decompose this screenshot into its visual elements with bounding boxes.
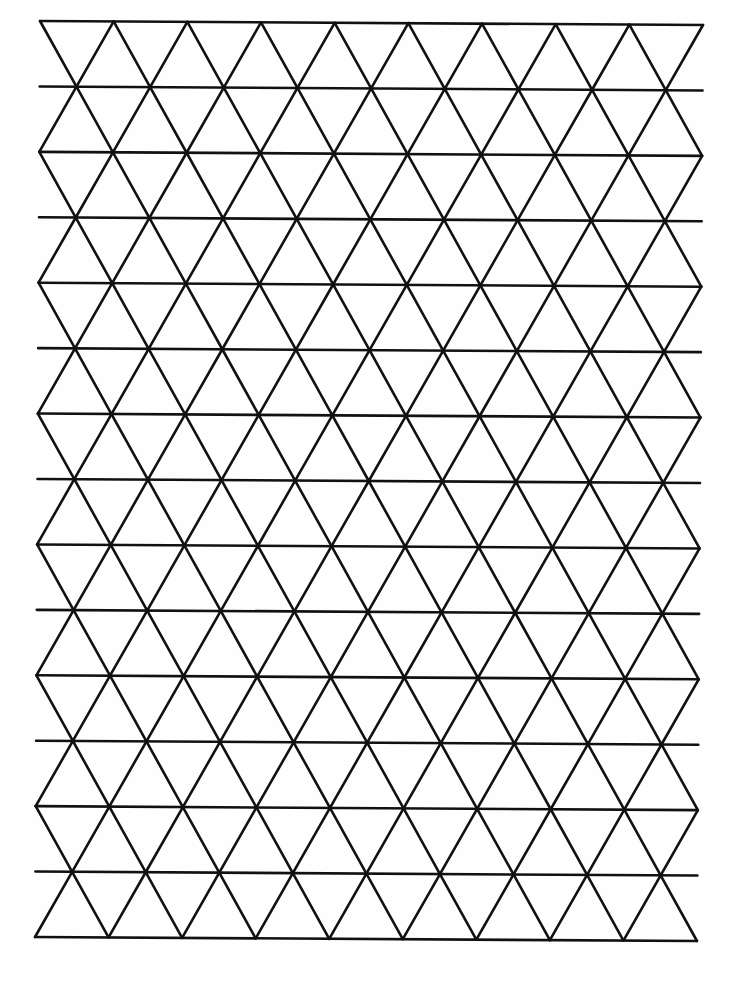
diagonal-line <box>370 154 407 219</box>
diagonal-line <box>371 23 408 88</box>
diagonal-line <box>588 744 624 810</box>
diagonal-line <box>257 677 293 743</box>
diagonal-line <box>219 873 255 939</box>
diagonal-line <box>366 874 402 940</box>
diagonal-line <box>148 414 185 479</box>
diagonal-line <box>187 153 223 219</box>
diagonal-line <box>662 744 698 810</box>
diagonal-line <box>75 348 111 414</box>
diagonal-line <box>182 873 219 938</box>
diagonal-line <box>110 676 146 742</box>
diagonal-line <box>40 21 76 87</box>
diagonal-line <box>628 286 664 352</box>
diagonal-line <box>221 546 258 611</box>
horizontal-line <box>36 675 698 679</box>
diagonal-line <box>146 872 182 938</box>
diagonal-line <box>663 483 699 549</box>
diagonal-line <box>405 547 441 613</box>
diagonal-line <box>552 613 589 678</box>
diagonal-line <box>480 285 516 351</box>
diagonal-line <box>480 220 517 285</box>
diagonal-line <box>479 547 515 613</box>
diagonal-line <box>113 152 149 218</box>
diagonal-line <box>297 154 334 219</box>
horizontal-line <box>39 283 702 287</box>
diagonal-line <box>554 286 590 352</box>
diagonal-line <box>257 611 294 676</box>
diagonal-line <box>627 417 663 483</box>
diagonal-line <box>370 219 406 285</box>
diagonal-line <box>625 679 661 745</box>
diagonal-line <box>555 155 591 221</box>
diagonal-line <box>477 744 514 809</box>
diagonal-line <box>629 25 665 91</box>
diagonal-line <box>442 547 479 612</box>
diagonal-line <box>553 351 590 416</box>
diagonal-line <box>258 546 294 612</box>
diagonal-line <box>149 218 185 284</box>
diagonal-line <box>296 284 333 349</box>
diagonal-line <box>109 872 146 937</box>
diagonal-line <box>148 480 184 546</box>
diagonal-line <box>665 156 702 221</box>
diagonal-line <box>661 875 697 941</box>
diagonal-line <box>445 24 482 89</box>
diagonal-line <box>592 90 628 156</box>
diagonal-line <box>221 611 257 677</box>
diagonal-line <box>260 88 297 153</box>
diagonal-line <box>72 807 109 872</box>
diagonal-line <box>146 807 183 872</box>
diagonal-line <box>256 873 293 938</box>
horizontal-line <box>35 937 697 941</box>
diagonal-line <box>111 480 148 545</box>
diagonal-line <box>516 417 553 482</box>
diagonal-line <box>478 613 515 678</box>
diagonal-line <box>222 480 258 546</box>
diagonal-line <box>256 742 293 807</box>
diagonal-line <box>297 219 333 285</box>
diagonal-line <box>261 22 297 88</box>
diagonal-line <box>407 285 443 351</box>
diagonal-line <box>517 351 553 417</box>
diagonal-line <box>445 89 481 155</box>
diagonal-line <box>663 418 700 483</box>
diagonal-line <box>550 875 587 940</box>
diagonal-line <box>74 414 111 479</box>
diagonal-line <box>334 88 371 153</box>
diagonal-line <box>294 677 331 742</box>
diagonal-line <box>331 677 367 743</box>
diagonal-line <box>476 874 513 939</box>
diagonal-line <box>220 677 257 742</box>
diagonal-line <box>589 548 626 613</box>
diagonal-line <box>260 153 296 219</box>
diagonal-line <box>518 220 554 286</box>
diagonal-line <box>39 152 75 218</box>
diagonal-line <box>589 613 625 679</box>
diagonal-line <box>588 679 625 744</box>
diagonal-line <box>441 743 477 809</box>
diagonal-line <box>258 481 295 546</box>
diagonal-line <box>440 809 477 874</box>
horizontal-line <box>40 21 703 25</box>
diagonal-line <box>334 154 370 220</box>
diagonal-line <box>481 89 518 154</box>
diagonal-line <box>444 155 481 220</box>
diagonal-line <box>224 88 260 154</box>
diagonal-line <box>73 676 110 741</box>
diagonal-line <box>627 352 664 417</box>
diagonal-line <box>39 283 75 349</box>
diagonal-line <box>370 350 406 416</box>
diagonal-line <box>552 678 588 744</box>
diagonal-line <box>36 806 72 872</box>
diagonal-line <box>220 742 256 808</box>
diagonal-line <box>149 153 186 218</box>
diagonal-line <box>259 219 296 284</box>
diagonal-line <box>665 221 701 287</box>
diagonal-line <box>111 414 147 480</box>
diagonal-line <box>38 414 74 480</box>
diagonal-line <box>223 153 260 218</box>
diagonal-line <box>183 807 219 873</box>
diagonal-line <box>626 483 663 548</box>
diagonal-line <box>187 22 223 88</box>
diagonal-line <box>110 611 147 676</box>
